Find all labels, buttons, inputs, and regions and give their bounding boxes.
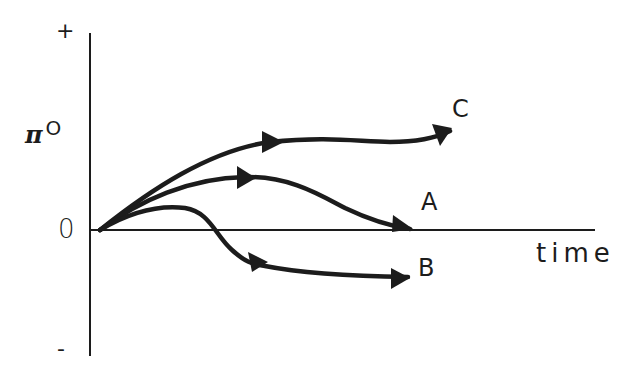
curve-c-label: C xyxy=(452,97,469,121)
y-axis-negative-label: - xyxy=(57,338,65,360)
curve-c xyxy=(100,124,452,230)
arrow-icon xyxy=(237,166,256,189)
diagram-canvas xyxy=(0,0,640,375)
curve-b xyxy=(100,207,410,289)
arrow-icon xyxy=(262,131,284,153)
y-axis-positive-label: + xyxy=(56,20,74,42)
pi-superscript: O xyxy=(46,116,62,140)
arrow-icon xyxy=(392,215,413,232)
y-axis-variable-label: πO xyxy=(25,118,61,147)
x-axis-label: time xyxy=(536,240,615,266)
pi-symbol: π xyxy=(25,120,43,149)
curve-b-label: B xyxy=(418,256,434,280)
arrow-icon xyxy=(391,268,410,289)
curve-a xyxy=(100,166,413,232)
arrow-icon xyxy=(248,252,268,272)
y-axis-zero-label: 0 xyxy=(58,216,75,242)
curve-a-label: A xyxy=(421,190,437,214)
